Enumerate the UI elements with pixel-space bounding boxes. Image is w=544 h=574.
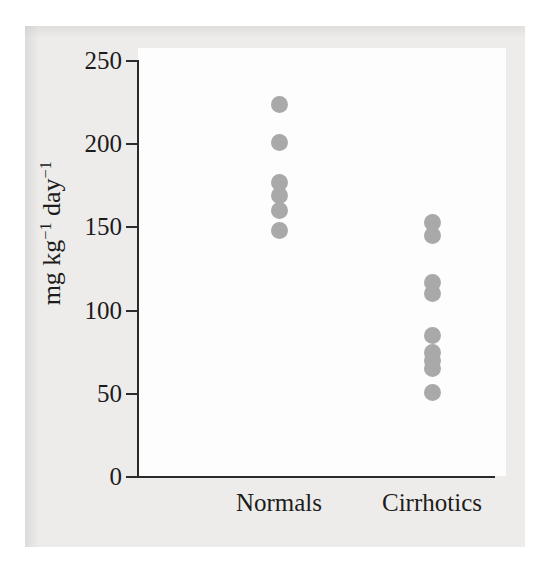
- data-point-cirrhotics-7: [424, 360, 441, 377]
- data-point-cirrhotics-8: [424, 384, 441, 401]
- data-point-normals-4: [271, 202, 288, 219]
- data-point-normals-1: [271, 134, 288, 151]
- data-point-normals-0: [271, 96, 288, 113]
- data-points-layer: [0, 0, 544, 574]
- data-point-cirrhotics-4: [424, 327, 441, 344]
- data-point-normals-5: [271, 222, 288, 239]
- figure-page: 050100150200250 mg kg−1 day−1 NormalsCir…: [0, 0, 544, 574]
- data-point-cirrhotics-1: [424, 227, 441, 244]
- x-axis-label-cirrhotics: Cirrhotics: [332, 489, 532, 517]
- data-point-cirrhotics-3: [424, 285, 441, 302]
